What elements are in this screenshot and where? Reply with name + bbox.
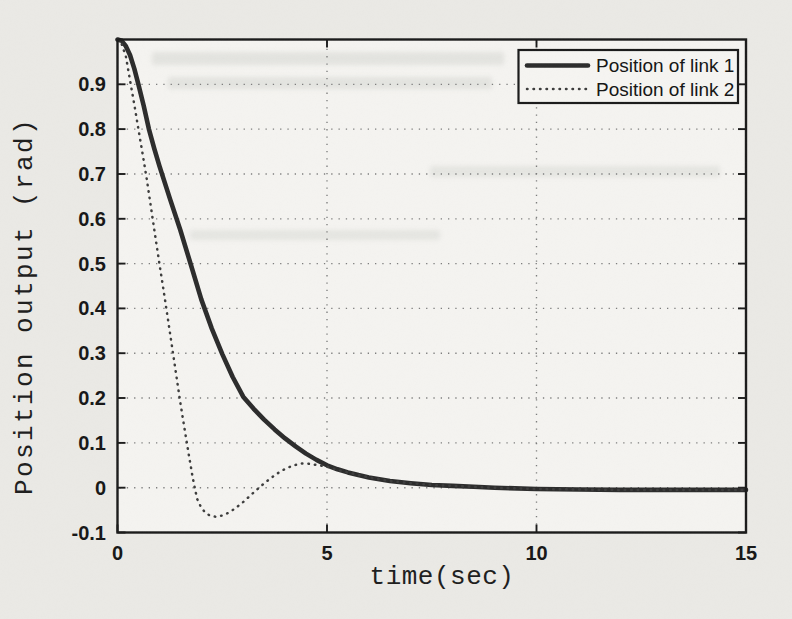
y-tick-label: 0.7 (78, 163, 106, 185)
y-tick-label: -0.1 (72, 522, 106, 544)
scanned-figure-page: -0.100.10.20.30.40.50.60.70.80.9051015 P… (0, 0, 792, 619)
legend-label-link1: Position of link 1 (596, 55, 734, 76)
x-tick-label: 15 (735, 542, 757, 564)
y-tick-label: 0.5 (78, 253, 106, 275)
y-tick-label: 0.8 (78, 118, 106, 140)
legend-label-link2: Position of link 2 (596, 79, 734, 100)
y-axis-label: Position output (rad) (10, 117, 40, 495)
y-tick-label: 0.9 (78, 73, 106, 95)
x-tick-label: 5 (321, 542, 332, 564)
x-axis-label: time(sec) (370, 562, 515, 592)
y-tick-label: 0.6 (78, 208, 106, 230)
plot-background (118, 40, 747, 533)
y-tick-label: 0.3 (78, 342, 106, 364)
chart-svg: -0.100.10.20.30.40.50.60.70.80.9051015 P… (0, 0, 792, 619)
y-tick-label: 0.4 (78, 297, 107, 319)
y-tick-label: 0.2 (78, 387, 106, 409)
y-tick-label: 0 (95, 477, 106, 499)
y-tick-label: 0.1 (78, 432, 106, 454)
legend: Position of link 1 Position of link 2 (519, 50, 739, 103)
x-tick-label: 10 (525, 542, 547, 564)
x-tick-label: 0 (112, 542, 123, 564)
